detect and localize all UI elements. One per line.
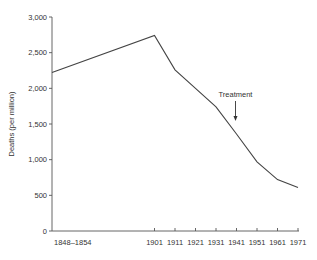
y-tick-label: 3,000: [28, 13, 47, 22]
x-tick-label: 1931: [208, 238, 225, 247]
x-tick-label: 1941: [228, 238, 245, 247]
x-tick-label: 1921: [187, 238, 204, 247]
y-tick-label: 0: [43, 227, 47, 236]
x-tick-label: 1848–1854: [54, 238, 92, 247]
x-tick-label: 1951: [249, 238, 266, 247]
x-axis: 1848–18541901191119211931194119511961197…: [52, 228, 306, 247]
y-axis: 05001,0001,5002,0002,5003,000: [28, 13, 52, 236]
data-line: [52, 36, 298, 188]
x-tick-label: 1961: [269, 238, 286, 247]
y-tick-label: 2,000: [28, 84, 47, 93]
y-tick-label: 500: [34, 191, 47, 200]
y-tick-label: 2,500: [28, 48, 47, 57]
annotation-label: Treatment: [219, 90, 254, 99]
y-tick-label: 1,500: [28, 120, 47, 129]
arrow-head-icon: [234, 116, 238, 121]
y-axis-title: Deaths (per million): [7, 91, 16, 157]
line-chart: 05001,0001,5002,0002,5003,000 1848–18541…: [0, 0, 317, 260]
x-tick-label: 1911: [167, 238, 183, 247]
x-tick-label: 1971: [290, 238, 307, 247]
y-tick-label: 1,000: [28, 155, 47, 164]
x-tick-label: 1901: [146, 238, 163, 247]
